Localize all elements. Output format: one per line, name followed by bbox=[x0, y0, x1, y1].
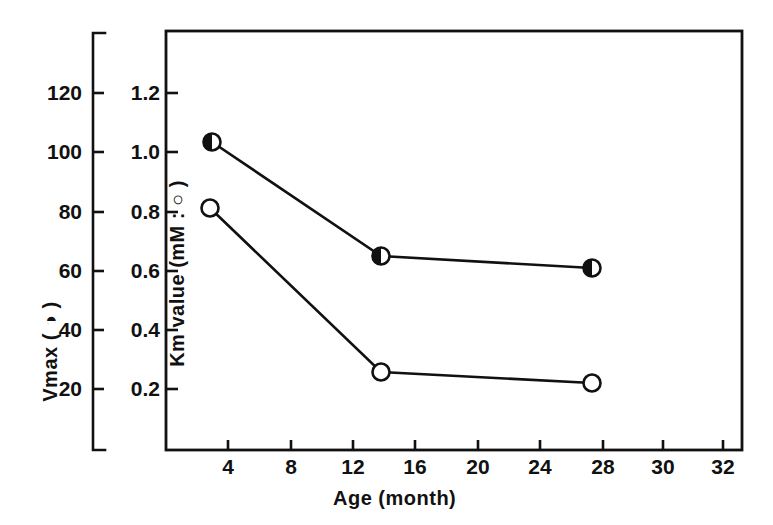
figure-chart: 120 100 80 60 40 20 1.2 1.0 0.8 0.6 0.4 … bbox=[0, 0, 773, 525]
series-vmax-marker bbox=[373, 248, 390, 265]
x-tick-label: 32 bbox=[700, 455, 746, 479]
series-km-marker bbox=[373, 364, 390, 381]
series-vmax-marker bbox=[204, 134, 221, 151]
x-tick-label: 16 bbox=[392, 455, 438, 479]
x-tick-label: 20 bbox=[455, 455, 501, 479]
x-tick-label: 30 bbox=[640, 455, 686, 479]
vmax-axis-ticks bbox=[93, 93, 104, 389]
x-axis-ticks bbox=[228, 440, 723, 450]
x-tick-label: 8 bbox=[268, 455, 314, 479]
x-axis-title: Age (month) bbox=[333, 487, 456, 510]
km-axis-title: Km value (mM : ○ ) bbox=[166, 139, 189, 409]
km-tick-label: 0.8 bbox=[106, 200, 160, 224]
x-tick-label: 4 bbox=[205, 455, 251, 479]
x-tick-label: 12 bbox=[330, 455, 376, 479]
km-tick-label: 1.0 bbox=[106, 140, 160, 164]
km-tick-label: 0.2 bbox=[106, 377, 160, 401]
vmax-tick-label: 120 bbox=[26, 81, 82, 105]
vmax-tick-label: 80 bbox=[26, 200, 82, 224]
km-tick-label: 0.6 bbox=[106, 259, 160, 283]
series-vmax-line bbox=[212, 142, 592, 268]
series-km-marker bbox=[202, 200, 219, 217]
km-tick-label: 0.4 bbox=[106, 318, 160, 342]
series-km bbox=[202, 200, 601, 392]
x-tick-label: 24 bbox=[517, 455, 563, 479]
series-km-line bbox=[210, 208, 592, 383]
km-tick-label: 1.2 bbox=[106, 81, 160, 105]
vmax-axis-title: Vmax ( ◑ ) bbox=[39, 277, 62, 427]
vmax-axis-spine bbox=[93, 33, 105, 450]
x-tick-label: 28 bbox=[580, 455, 626, 479]
series-km-marker bbox=[584, 375, 601, 392]
plot-frame bbox=[166, 31, 742, 450]
series-vmax-marker bbox=[584, 260, 601, 277]
vmax-tick-label: 100 bbox=[26, 140, 82, 164]
series-vmax bbox=[204, 134, 601, 277]
